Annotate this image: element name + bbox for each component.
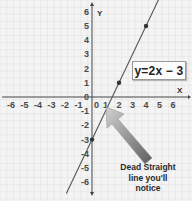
y-tick-label: 2 [84, 64, 89, 74]
caption-line-2: line you'll [112, 173, 184, 184]
y-tick-label: -1 [81, 106, 89, 116]
x-tick-label: 3 [130, 100, 135, 110]
x-tick-label: -6 [7, 100, 15, 110]
x-tick-label: 5 [157, 100, 162, 110]
x-tick-label: -3 [47, 100, 55, 110]
caption-line-1: Dead Straight [112, 162, 184, 173]
callout-arrow-icon [106, 107, 152, 164]
y-tick-label: 3 [84, 49, 89, 59]
y-tick-label: 5 [84, 21, 89, 31]
x-tick-label: 6 [170, 100, 175, 110]
x-axis-label: X [177, 86, 183, 95]
y-tick-label: 1 [84, 78, 89, 88]
callout-caption: Dead Straight line you'll notice [112, 162, 184, 194]
y-tick-label: -5 [81, 163, 89, 173]
y-tick-label: -3 [81, 135, 89, 145]
chart-area: -6-5-4-3-2-11234566543210-1-2-3-4-5-60 Y… [0, 0, 192, 201]
y-tick-label: 6 [84, 7, 89, 17]
y-tick-label: 0 [84, 92, 89, 102]
equation-label: y=2x − 3 [132, 61, 186, 80]
x-tick-label: -5 [20, 100, 28, 110]
data-point-marker [90, 137, 94, 141]
y-tick-label: 4 [84, 35, 89, 45]
x-tick-label: 2 [116, 100, 121, 110]
caption-line-3: notice [112, 183, 184, 194]
data-point-marker [117, 81, 121, 85]
x-tick-label: -4 [34, 100, 42, 110]
y-tick-label: -2 [81, 120, 89, 130]
y-tick-label: -6 [81, 177, 89, 187]
x-tick-label: 0 [94, 100, 99, 110]
y-axis-label: Y [97, 9, 103, 18]
x-tick-label: 4 [143, 100, 148, 110]
x-tick-label: -2 [61, 100, 69, 110]
data-point-marker [144, 24, 148, 28]
